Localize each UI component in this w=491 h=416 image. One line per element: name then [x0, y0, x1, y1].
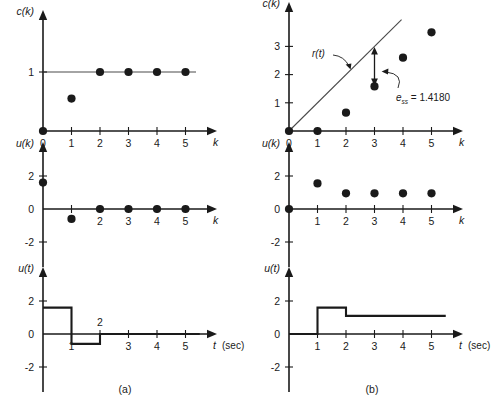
y-axis-arrowhead: [285, 267, 293, 277]
x-tick-label: 1: [315, 137, 321, 149]
steady-state-error-label: ess = 1.4180: [396, 92, 450, 105]
y-axis-label: u(t): [264, 262, 280, 274]
y-tick-label: 2: [274, 68, 280, 80]
figure-caption: (a): [119, 383, 132, 395]
x-axis-arrowhead: [207, 127, 217, 135]
x-tick-label: 2: [343, 137, 349, 149]
data-point: [313, 127, 321, 135]
x-axis-arrowhead: [453, 330, 463, 338]
y-tick-label: 1: [274, 97, 280, 109]
y-tick-label: -2: [25, 361, 34, 373]
x-tick-label: 4: [154, 215, 160, 227]
panel-a-ck: c(k)k0123451: [17, 5, 220, 149]
y-tick-label: 2: [274, 295, 280, 307]
x-tick-label: 5: [183, 340, 189, 352]
data-point: [67, 215, 75, 223]
data-point: [313, 179, 321, 187]
x-tick-label: 3: [126, 215, 132, 227]
x-tick-label-above: 2: [97, 316, 103, 328]
y-axis-label: u(t): [18, 262, 34, 274]
y-tick-label: -2: [271, 361, 280, 373]
x-tick-label: 5: [429, 340, 435, 352]
data-point: [427, 189, 435, 197]
panel-b-ck: c(k)k012345123r(t)ess = 1.4180: [263, 0, 466, 149]
data-point: [181, 68, 189, 76]
data-point: [342, 109, 350, 117]
x-tick-label: 5: [183, 215, 189, 227]
x-tick-label: 5: [183, 137, 189, 149]
x-tick-label: 2: [343, 215, 349, 227]
y-tick-label: 0: [28, 328, 34, 340]
y-axis-arrowhead: [285, 2, 293, 12]
data-point: [342, 189, 350, 197]
data-point: [96, 205, 104, 213]
x-tick-label: 4: [400, 215, 406, 227]
x-axis-label: t: [459, 339, 463, 351]
y-axis-arrowhead: [39, 267, 47, 277]
ramp-label: r(t): [312, 48, 325, 59]
x-axis-arrowhead: [453, 205, 463, 213]
x-tick-label: 4: [400, 340, 406, 352]
y-axis-arrowhead: [39, 10, 47, 20]
y-tick-label: 2: [28, 170, 34, 182]
data-point: [96, 68, 104, 76]
x-axis-arrowhead: [207, 330, 217, 338]
data-point: [124, 205, 132, 213]
data-point: [124, 68, 132, 76]
y-tick-label: 0: [274, 328, 280, 340]
ramp-leader-arrowhead: [346, 63, 352, 69]
x-tick-label: 5: [429, 215, 435, 227]
waveform-path: [43, 308, 200, 344]
x-axis-arrowhead: [207, 205, 217, 213]
error-leader-arrowhead: [382, 68, 389, 74]
y-tick-label: -2: [271, 236, 280, 248]
x-tick-label: 3: [372, 215, 378, 227]
data-point: [370, 189, 378, 197]
x-tick-label: 1: [315, 215, 321, 227]
panel-b-uk: u(k)k12345-202: [262, 137, 465, 267]
y-tick-label: 0: [274, 203, 280, 215]
data-point: [399, 189, 407, 197]
x-tick-label: 2: [97, 137, 103, 149]
x-tick-label: 2: [343, 340, 349, 352]
y-axis-label: u(k): [16, 137, 34, 149]
x-axis-label: k: [459, 214, 465, 226]
data-point: [181, 205, 189, 213]
error-leader-line: [386, 72, 400, 88]
panel-a-ut: u(t)t(sec)13452-202: [18, 262, 244, 392]
x-axis-arrowhead: [453, 127, 463, 135]
data-point: [427, 28, 435, 36]
figure-captions: (a)(b): [119, 383, 379, 395]
y-axis-label: u(k): [262, 137, 280, 149]
x-tick-label: 2: [97, 215, 103, 227]
x-axis-label: k: [213, 214, 219, 226]
x-tick-label: 4: [400, 137, 406, 149]
y-tick-label: 0: [28, 203, 34, 215]
figure-caption: (b): [366, 383, 379, 395]
x-axis-label: t: [213, 339, 217, 351]
x-tick-label: 1: [315, 340, 321, 352]
y-tick-label: 1: [28, 66, 34, 78]
x-tick-label: 4: [154, 340, 160, 352]
waveform-path: [289, 308, 446, 334]
y-tick-label: 3: [274, 40, 280, 52]
error-value: = 1.4180: [408, 92, 450, 103]
x-tick-label: 3: [126, 137, 132, 149]
x-tick-label: 3: [372, 137, 378, 149]
x-tick-label: 5: [429, 137, 435, 149]
data-point: [39, 179, 47, 187]
x-axis-unit: (sec): [468, 340, 490, 351]
x-tick-label: 1: [69, 137, 75, 149]
x-axis-label: k: [213, 136, 219, 148]
x-tick-label: 3: [126, 340, 132, 352]
y-axis-label: c(k): [263, 0, 281, 9]
data-point: [67, 94, 75, 102]
panel-a-uk: u(k)k2345-202: [16, 137, 219, 267]
y-axis-label: c(k): [17, 5, 35, 17]
x-axis-unit: (sec): [222, 340, 244, 351]
data-point: [153, 68, 161, 76]
y-tick-label: 2: [274, 170, 280, 182]
x-tick-label: 3: [372, 340, 378, 352]
data-point: [39, 127, 47, 135]
panel-b-ut: u(t)t(sec)12345-202: [264, 262, 490, 392]
